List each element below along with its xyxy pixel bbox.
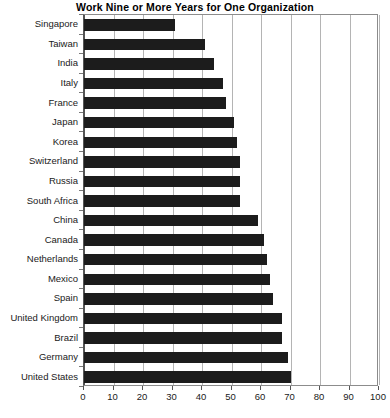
category-label: Taiwan bbox=[0, 38, 78, 49]
x-tick-label-0: 0 bbox=[80, 391, 85, 403]
x-tick-label-30: 30 bbox=[166, 391, 177, 403]
bar-row bbox=[84, 19, 377, 31]
bar bbox=[84, 19, 175, 31]
x-tick-70 bbox=[290, 386, 291, 390]
x-tick-label-70: 70 bbox=[284, 391, 295, 403]
x-tick-40 bbox=[201, 386, 202, 390]
x-tick-30 bbox=[172, 386, 173, 390]
bar-row bbox=[84, 58, 377, 70]
bar bbox=[84, 274, 270, 286]
bar-row bbox=[84, 39, 377, 51]
category-axis-labels: SingaporeTaiwanIndiaItalyFranceJapanKore… bbox=[0, 14, 78, 386]
bar-row bbox=[84, 78, 377, 90]
bar-row bbox=[84, 215, 377, 227]
bar-row bbox=[84, 274, 377, 286]
bar bbox=[84, 254, 267, 266]
x-tick-20 bbox=[142, 386, 143, 390]
x-tick-90 bbox=[349, 386, 350, 390]
bar bbox=[84, 97, 226, 109]
bar-row bbox=[84, 313, 377, 325]
x-tick-label-10: 10 bbox=[107, 391, 118, 403]
chart-title: Work Nine or More Years for One Organiza… bbox=[0, 0, 390, 14]
bar-row bbox=[84, 332, 377, 344]
x-tick-80 bbox=[319, 386, 320, 390]
x-tick-label-80: 80 bbox=[314, 391, 325, 403]
x-tick-100 bbox=[378, 386, 379, 390]
bar bbox=[84, 78, 223, 90]
x-tick-label-90: 90 bbox=[343, 391, 354, 403]
bar bbox=[84, 156, 240, 168]
bar-row bbox=[84, 293, 377, 305]
category-label: Switzerland bbox=[0, 155, 78, 166]
category-label: Italy bbox=[0, 77, 78, 88]
category-label: Korea bbox=[0, 136, 78, 147]
category-label: United Kingdom bbox=[0, 312, 78, 323]
category-label: Spain bbox=[0, 292, 78, 303]
bar bbox=[84, 39, 205, 51]
x-tick-label-40: 40 bbox=[196, 391, 207, 403]
bar-row bbox=[84, 117, 377, 129]
category-label: Singapore bbox=[0, 18, 78, 29]
x-tick-60 bbox=[260, 386, 261, 390]
category-label: United States bbox=[0, 371, 78, 382]
category-label: Russia bbox=[0, 175, 78, 186]
bar-row bbox=[84, 371, 377, 383]
category-label: Canada bbox=[0, 234, 78, 245]
category-label: Brazil bbox=[0, 332, 78, 343]
x-tick-10 bbox=[113, 386, 114, 390]
x-tick-0 bbox=[83, 386, 84, 390]
x-axis-tick-labels: 0102030405060708090100 bbox=[0, 391, 390, 405]
bar-row bbox=[84, 254, 377, 266]
category-label: China bbox=[0, 214, 78, 225]
bar bbox=[84, 195, 240, 207]
x-tick-label-100: 100 bbox=[370, 391, 386, 403]
bar-row bbox=[84, 352, 377, 364]
bar bbox=[84, 58, 214, 70]
x-tick-label-60: 60 bbox=[255, 391, 266, 403]
category-label: Mexico bbox=[0, 273, 78, 284]
category-label: Netherlands bbox=[0, 253, 78, 264]
bar bbox=[84, 176, 240, 188]
x-tick-50 bbox=[231, 386, 232, 390]
category-label: Japan bbox=[0, 116, 78, 127]
x-tick-label-20: 20 bbox=[137, 391, 148, 403]
bar-row bbox=[84, 234, 377, 246]
x-tick-label-50: 50 bbox=[225, 391, 236, 403]
bar bbox=[84, 117, 234, 129]
bar bbox=[84, 352, 288, 364]
bar-row bbox=[84, 137, 377, 149]
bar bbox=[84, 332, 282, 344]
bars-layer bbox=[84, 15, 377, 385]
category-label: India bbox=[0, 57, 78, 68]
bar-chart: Work Nine or More Years for One Organiza… bbox=[0, 0, 390, 418]
bar bbox=[84, 313, 282, 325]
bar-row bbox=[84, 97, 377, 109]
category-label: South Africa bbox=[0, 195, 78, 206]
bar-row bbox=[84, 176, 377, 188]
plot-area bbox=[83, 14, 378, 386]
bar bbox=[84, 215, 258, 227]
bar-row bbox=[84, 195, 377, 207]
gridline-100 bbox=[379, 15, 380, 385]
bar bbox=[84, 371, 291, 383]
category-label: Germany bbox=[0, 351, 78, 362]
category-label: France bbox=[0, 97, 78, 108]
bar bbox=[84, 293, 273, 305]
bar bbox=[84, 137, 237, 149]
bar bbox=[84, 234, 264, 246]
bar-row bbox=[84, 156, 377, 168]
